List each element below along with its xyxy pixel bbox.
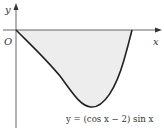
x-axis-arrow-icon [155, 28, 162, 33]
equation-label: y = (cos x − 2) sin x [65, 114, 153, 124]
origin-label: O [4, 36, 12, 47]
y-axis-arrow-icon [14, 3, 19, 10]
x-axis-label: x [153, 36, 159, 47]
function-graph: y x O y = (cos x − 2) sin x [0, 0, 164, 130]
y-axis-label: y [4, 4, 11, 15]
